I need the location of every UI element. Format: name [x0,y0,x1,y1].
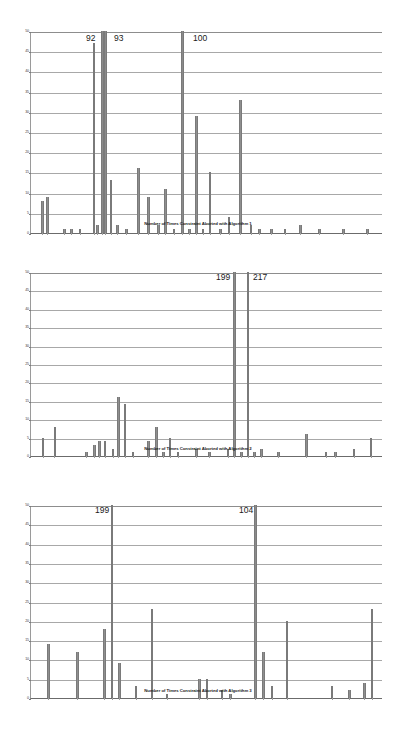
x-tick-mark [64,233,65,235]
x-tick-mark [117,233,118,235]
chart-block-algorithm-1: 051015202530354045509293100Number of Tim… [0,10,396,246]
chart-page: 051015202530354045509293100Number of Tim… [0,0,396,731]
x-tick-mark [97,233,98,235]
x-tick-mark [104,698,105,700]
gridline [31,564,382,565]
x-tick-mark [248,456,249,458]
x-tick-mark [285,233,286,235]
y-axis-tick-label: 50 [25,30,29,34]
x-tick-mark [118,456,119,458]
x-tick-mark [158,233,159,235]
x-tick-mark [371,456,372,458]
x-tick-mark [152,698,153,700]
chart-algorithm-1: 051015202530354045509293100Number of Tim… [0,10,396,246]
x-tick-mark [220,233,221,235]
bar [181,31,184,233]
x-tick-mark [111,233,112,235]
gridline [31,328,382,329]
x-tick-mark [94,456,95,458]
y-axis-tick-label: 0 [27,455,29,459]
gridline [31,660,382,661]
gridline [31,641,382,642]
y-axis-tick-label: 15 [25,400,29,404]
x-tick-mark [241,456,242,458]
y-tick-mark [29,603,31,604]
gridline [31,214,382,215]
y-axis-tick-label: 50 [25,504,29,508]
y-tick-mark [29,564,31,565]
y-axis-tick-label: 35 [25,326,29,330]
x-tick-mark [77,698,78,700]
gridline [31,72,382,73]
y-tick-mark [29,402,31,403]
gridline [31,153,382,154]
y-axis-tick-label: 45 [25,524,29,528]
y-tick-mark [29,291,31,292]
x-tick-mark [196,456,197,458]
bar [247,272,250,456]
x-tick-mark [94,233,95,235]
x-tick-mark [105,456,106,458]
y-axis-tick-label: 30 [25,581,29,585]
y-tick-mark [29,506,31,507]
y-axis-tick-label: 40 [25,71,29,75]
x-tick-mark [240,233,241,235]
plot-area: 05101520253035404550 [30,32,382,234]
peak-value-label: 199 [216,273,230,282]
x-tick-mark [178,456,179,458]
y-tick-mark [29,365,31,366]
x-tick-mark [47,233,48,235]
y-tick-mark [29,273,31,274]
x-tick-mark [207,698,208,700]
gridline [31,310,382,311]
y-axis-tick-label: 35 [25,91,29,95]
gridline [31,194,382,195]
x-tick-mark [148,233,149,235]
y-tick-mark [29,457,31,458]
gridline [31,93,382,94]
y-axis-tick-label: 20 [25,382,29,386]
x-tick-mark [174,233,175,235]
x-tick-mark [80,233,81,235]
gridline [31,365,382,366]
gridline [31,420,382,421]
x-tick-mark [126,233,127,235]
peak-value-label: 104 [239,506,253,515]
chart-block-algorithm-3: 05101520253035404550199104Number of Time… [0,488,396,713]
y-tick-mark [29,153,31,154]
y-axis-tick-label: 5 [27,437,29,441]
y-axis-tick-label: 45 [25,290,29,294]
x-tick-mark [372,698,373,700]
y-tick-mark [29,328,31,329]
x-tick-mark [306,456,307,458]
y-tick-mark [29,173,31,174]
gridline [31,273,382,274]
y-tick-mark [29,545,31,546]
y-axis-tick-label: 5 [27,678,29,682]
gridline [31,347,382,348]
plot-area: 05101520253035404550 [30,506,382,699]
x-tick-mark [230,698,231,700]
bar [101,31,104,233]
bar [239,100,242,233]
bar [111,505,114,698]
x-tick-mark [71,233,72,235]
bar [46,197,49,233]
y-axis-tick-label: 35 [25,562,29,566]
y-axis-tick-label: 20 [25,620,29,624]
x-tick-mark [138,233,139,235]
x-tick-mark [272,698,273,700]
bar [286,621,289,698]
y-axis-tick-label: 40 [25,543,29,547]
x-tick-mark [222,698,223,700]
y-axis-tick-label: 10 [25,659,29,663]
gridline [31,439,382,440]
x-tick-mark [354,456,355,458]
peak-value-label: 100 [193,34,207,43]
y-tick-mark [29,660,31,661]
x-tick-mark [261,456,262,458]
x-tick-mark [119,698,120,700]
gridline [31,52,382,53]
bar [233,272,236,456]
y-axis-tick-label: 30 [25,345,29,349]
